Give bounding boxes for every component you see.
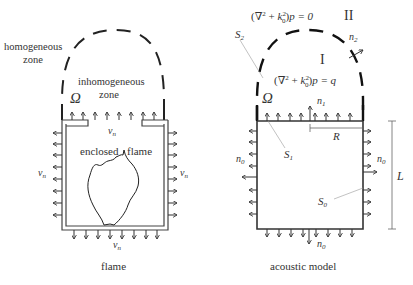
vn-arrows-bottom <box>74 230 157 239</box>
n1-arrows-top <box>267 113 350 121</box>
flame-caption: flame <box>101 260 126 272</box>
enclosed-label: enclosed <box>80 145 119 157</box>
n0-arrows-left <box>249 131 257 214</box>
omega-label: Ω <box>70 90 81 106</box>
vn-top-label: vn <box>108 125 116 138</box>
inner-equation: (∇2 + k20)p = q <box>274 74 337 89</box>
vn-bottom-label: vn <box>113 239 121 252</box>
region-I-label: I <box>320 52 325 67</box>
n1-label: n1 <box>317 95 326 108</box>
diagram-canvas: homogeneous zone inhomogeneous zone Ω en… <box>0 0 413 285</box>
S0-label: S0 <box>318 195 328 209</box>
vn-right-label: vn <box>180 167 188 180</box>
S1-leader <box>268 121 285 148</box>
S2-leader <box>240 40 263 78</box>
outer-equation: (∇2 + k20)p = 0 <box>251 10 314 25</box>
region-II-label: II <box>344 8 354 23</box>
n0-bottom-label: n0 <box>317 238 326 251</box>
vn-arrows-top <box>72 112 154 120</box>
inhomogeneous-label-1: inhomogeneous <box>78 76 145 87</box>
domain-box <box>257 121 363 229</box>
S2-label: S2 <box>235 28 245 42</box>
homogeneous-label-2: zone <box>23 54 43 65</box>
flame-shape <box>88 150 139 225</box>
length-dimension <box>388 121 396 229</box>
homogeneous-label-1: homogeneous <box>4 41 62 52</box>
S0-leader <box>334 188 363 199</box>
omega-label-right: Ω <box>262 90 273 106</box>
vn-arrows-right <box>168 133 177 215</box>
flame-label: flame <box>127 145 152 157</box>
R-label: R <box>332 130 340 142</box>
S1-label: S1 <box>284 148 293 162</box>
vn-arrows-left <box>53 133 62 215</box>
n2-label: n2 <box>349 31 358 44</box>
acoustic-model-panel: (∇2 + k20)p = 0 II I (∇2 + k20)p = q S2 … <box>235 8 404 272</box>
n0-left-label: n0 <box>236 153 245 166</box>
n0-right-label: n0 <box>377 153 386 166</box>
flame-panel: homogeneous zone inhomogeneous zone Ω en… <box>4 30 188 272</box>
L-label: L <box>396 169 404 183</box>
inhomogeneous-label-2: zone <box>99 89 119 100</box>
acoustic-model-caption: acoustic model <box>270 260 336 272</box>
vn-left-label: vn <box>38 167 46 180</box>
